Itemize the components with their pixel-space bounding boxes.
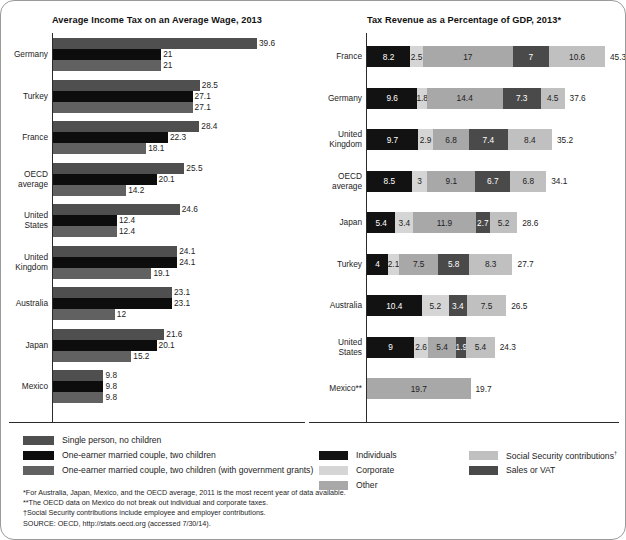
right-stacked-bar: 92.65.41.95.4 bbox=[367, 337, 495, 358]
legend-label: Corporate bbox=[356, 465, 394, 475]
left-bar-value: 20.1 bbox=[157, 173, 175, 185]
right-bar-row: Australia10.45.23.47.526.5 bbox=[309, 284, 619, 328]
right-bar-total: 35.2 bbox=[552, 129, 573, 150]
right-bar-row: OECDaverage8.539.16.76.834.1 bbox=[309, 160, 619, 204]
right-bar-row: France8.22.517710.645.3 bbox=[309, 35, 619, 79]
footnotes: *For Australia, Japan, Mexico, and the O… bbox=[23, 488, 611, 529]
left-bar-stack: 24.124.119.1 bbox=[53, 246, 305, 279]
legend-label: One-earner married couple, two children … bbox=[62, 465, 313, 475]
left-bar-row: 12 bbox=[53, 309, 305, 320]
left-bar-stack: 28.422.318.1 bbox=[53, 121, 305, 154]
left-bar bbox=[53, 80, 200, 91]
legend-swatch bbox=[23, 436, 54, 445]
right-bar-total: 27.7 bbox=[513, 254, 534, 275]
right-bar-total: 28.6 bbox=[517, 212, 538, 233]
right-bar-total: 24.3 bbox=[495, 337, 516, 358]
left-bar-row: 21 bbox=[53, 60, 305, 71]
left-bar bbox=[53, 392, 103, 403]
left-bar-value: 25.5 bbox=[184, 162, 202, 174]
right-bar-total: 37.6 bbox=[565, 88, 586, 109]
left-bar bbox=[53, 102, 193, 113]
left-bar-row: 14.2 bbox=[53, 185, 305, 196]
right-bar-segment: 10.4 bbox=[367, 295, 422, 316]
right-bar-row: Germany9.61.814.47.34.537.6 bbox=[309, 77, 619, 121]
left-bar bbox=[53, 185, 126, 196]
left-bar-value: 24.6 bbox=[180, 203, 198, 215]
left-bar-row: 39.6 bbox=[53, 38, 305, 49]
right-bar-row: UnitedKingdom9.72.96.87.48.435.2 bbox=[309, 118, 619, 162]
right-bar-segment: 5.4 bbox=[466, 337, 494, 358]
left-bar bbox=[53, 268, 151, 279]
right-bar-segment: 2.9 bbox=[418, 129, 433, 150]
right-bar-segment: 3.4 bbox=[395, 212, 413, 233]
left-chart-title: Average Income Tax on an Average Wage, 2… bbox=[9, 9, 305, 25]
left-bar-value: 28.4 bbox=[199, 120, 217, 132]
right-bar-segment: 9.7 bbox=[367, 129, 418, 150]
left-bar-row: 9.8 bbox=[53, 381, 305, 392]
right-bar-row: Turkey42.17.55.88.327.7 bbox=[309, 243, 619, 287]
left-category-label: Australia bbox=[9, 286, 48, 322]
right-bar-segment: 5.8 bbox=[438, 254, 468, 275]
left-bar-group: Germany39.62121 bbox=[9, 37, 305, 73]
right-category-label: Turkey bbox=[309, 243, 362, 287]
right-category-label: UnitedStates bbox=[309, 326, 362, 370]
right-bar-total: 26.5 bbox=[506, 295, 527, 316]
right-stacked-bar: 5.43.411.92.75.2 bbox=[367, 212, 517, 233]
left-bar-row: 19.1 bbox=[53, 268, 305, 279]
left-bar bbox=[53, 381, 103, 392]
legend-swatch bbox=[23, 466, 54, 475]
left-bar bbox=[53, 246, 177, 257]
left-bar-row: 12.4 bbox=[53, 215, 305, 226]
legend-item: Sales or VAT bbox=[469, 463, 619, 477]
left-bar bbox=[53, 287, 172, 298]
left-bar-stack: 21.620.115.2 bbox=[53, 329, 305, 362]
right-category-label: France bbox=[309, 35, 362, 79]
left-bar bbox=[53, 60, 161, 71]
right-bar-segment: 5.2 bbox=[490, 212, 517, 233]
right-bar-segment: 1.8 bbox=[417, 88, 426, 109]
legend-swatch bbox=[23, 451, 54, 460]
legend-swatch bbox=[319, 466, 348, 475]
legend-swatch bbox=[319, 451, 348, 460]
left-bar-group: Mexico9.89.89.8 bbox=[9, 369, 305, 405]
left-bar-row: 20.1 bbox=[53, 174, 305, 185]
left-bar-row: 9.8 bbox=[53, 370, 305, 381]
left-category-label: UnitedStates bbox=[9, 203, 48, 239]
right-bar-segment: 2.1 bbox=[388, 254, 399, 275]
left-bar-row: 24.1 bbox=[53, 257, 305, 268]
left-category-label: OECDaverage bbox=[9, 162, 48, 198]
legend-item: Single person, no children bbox=[23, 433, 313, 447]
right-bar-row: Japan5.43.411.92.75.228.6 bbox=[309, 201, 619, 245]
right-stacked-bar: 8.539.16.76.8 bbox=[367, 171, 546, 192]
figure-container: Average Income Tax on an Average Wage, 2… bbox=[0, 0, 626, 540]
left-bar bbox=[53, 91, 193, 102]
left-bar-value: 19.1 bbox=[151, 267, 169, 279]
left-bar bbox=[53, 143, 146, 154]
right-bar-segment: 6.8 bbox=[433, 129, 469, 150]
left-category-label: UnitedKingdom bbox=[9, 245, 48, 281]
left-bar-stack: 9.89.89.8 bbox=[53, 370, 305, 403]
left-bar bbox=[53, 329, 164, 340]
left-category-label: Turkey bbox=[9, 79, 48, 115]
right-bar-segment: 4.5 bbox=[541, 88, 565, 109]
left-category-label: Germany bbox=[9, 37, 48, 73]
legend-label: Individuals bbox=[356, 450, 397, 460]
left-bar-stack: 28.527.127.1 bbox=[53, 80, 305, 113]
right-category-label: UnitedKingdom bbox=[309, 118, 362, 162]
left-bar bbox=[53, 226, 117, 237]
right-bar-segment: 3.4 bbox=[449, 295, 467, 316]
right-bar-segment: 2.7 bbox=[476, 212, 490, 233]
right-stacked-bar: 10.45.23.47.5 bbox=[367, 295, 506, 316]
right-bar-segment: 19.7 bbox=[367, 378, 471, 399]
right-bar-row: Mexico**19.719.7 bbox=[309, 367, 619, 411]
legend-item: Corporate bbox=[319, 463, 469, 477]
legend-label: Sales or VAT bbox=[506, 465, 555, 475]
left-bar-stack: 24.612.412.4 bbox=[53, 204, 305, 237]
right-stacked-bar: 9.61.814.47.34.5 bbox=[367, 88, 565, 109]
left-bar-group: UnitedKingdom24.124.119.1 bbox=[9, 245, 305, 281]
right-bar-segment: 5.4 bbox=[428, 337, 456, 358]
left-bar-value: 39.6 bbox=[257, 37, 275, 49]
right-bar-segment: 8.4 bbox=[508, 129, 552, 150]
footnote-line: **The OECD data on Mexico do not break o… bbox=[23, 498, 611, 508]
left-bar-group: UnitedStates24.612.412.4 bbox=[9, 203, 305, 239]
